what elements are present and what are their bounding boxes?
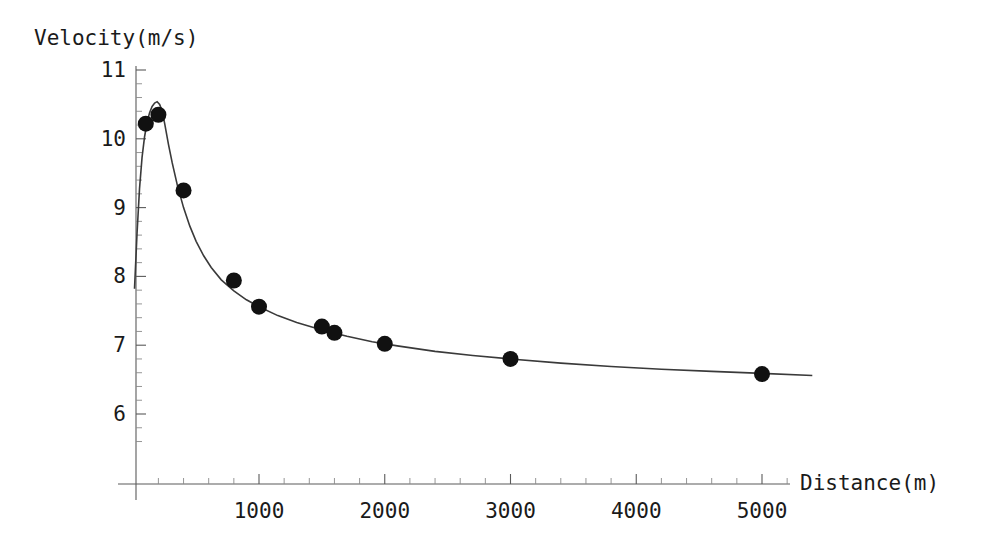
data-point <box>377 336 393 352</box>
data-point-group <box>138 107 770 382</box>
fitted-curve <box>135 102 813 376</box>
y-axis-title: Velocity(m/s) <box>34 26 198 50</box>
data-point <box>754 366 770 382</box>
chart-figure: Velocity(m/s) Distance(m) 67891011 10002… <box>0 0 1008 544</box>
y-tick-label: 6 <box>113 402 126 426</box>
data-point <box>226 273 242 289</box>
x-axis-tick-labels: 10002000300040005000 <box>234 499 788 523</box>
x-tick-label: 2000 <box>359 499 410 523</box>
x-tick-label: 1000 <box>234 499 285 523</box>
data-point <box>503 351 519 367</box>
x-tick-label: 3000 <box>485 499 536 523</box>
y-tick-label: 10 <box>101 127 126 151</box>
x-axis-ticks <box>158 474 787 484</box>
y-tick-label: 8 <box>113 264 126 288</box>
velocity-distance-plot: Velocity(m/s) Distance(m) 67891011 10002… <box>0 0 1008 544</box>
y-axis-tick-labels: 67891011 <box>101 58 126 426</box>
data-point <box>251 299 267 315</box>
data-point <box>326 325 342 341</box>
x-axis-title: Distance(m) <box>800 471 939 495</box>
y-tick-label: 7 <box>113 333 126 357</box>
y-tick-label: 11 <box>101 58 126 82</box>
data-point <box>150 107 166 123</box>
y-tick-label: 9 <box>113 196 126 220</box>
data-point <box>176 182 192 198</box>
x-tick-label: 4000 <box>611 499 662 523</box>
x-tick-label: 5000 <box>737 499 788 523</box>
